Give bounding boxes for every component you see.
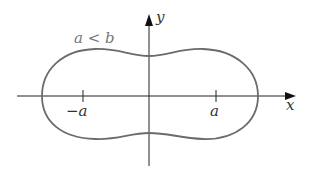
tick-label-neg-a: −a [66,104,88,119]
y-axis-arrow-icon [145,14,153,26]
x-axis-label: x [286,98,294,113]
y-axis [145,14,153,166]
condition-label: a < b [74,31,115,46]
oval-curve [42,49,258,139]
tick-label-pos-a: a [210,104,219,119]
x-axis [17,92,296,100]
y-axis-label: y [156,10,164,25]
